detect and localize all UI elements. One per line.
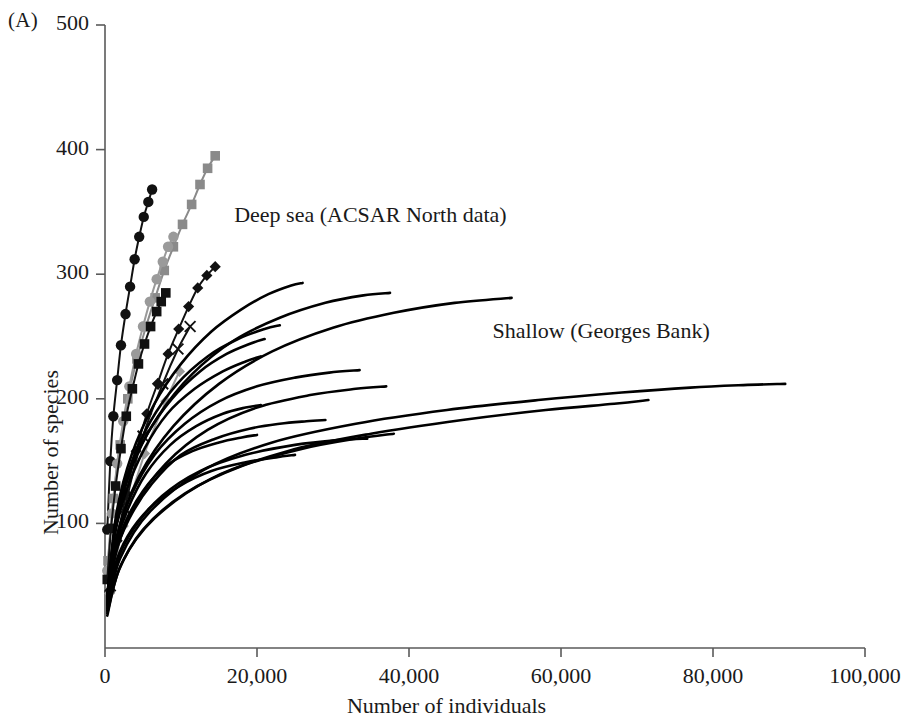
x-tick-label: 20,000 <box>192 663 322 689</box>
y-axis-title: Number of species <box>38 370 64 535</box>
curve-shallow-curve-7 <box>107 370 359 601</box>
curve-shallow-curve-14 <box>107 384 785 611</box>
curve-shallow-curve-9 <box>107 405 261 603</box>
curve-shallow-curve-2 <box>107 293 390 598</box>
x-tick-label: 40,000 <box>344 663 474 689</box>
curve-shallow-curve-1 <box>107 283 302 596</box>
x-tick-label: 0 <box>40 663 170 689</box>
x-axis-title: Number of individuals <box>0 693 893 719</box>
series-annotation: Shallow (Georges Bank) <box>493 318 710 344</box>
x-tick-label: 60,000 <box>496 663 626 689</box>
y-tick-label: 400 <box>19 135 89 161</box>
x-tick-label: 100,000 <box>800 663 905 689</box>
y-tick-label: 500 <box>19 10 89 36</box>
axes <box>96 25 865 657</box>
x-tick-label: 80,000 <box>648 663 778 689</box>
curve-shallow-curve-13 <box>107 455 295 611</box>
y-tick-label: 300 <box>19 259 89 285</box>
series-annotation: Deep sea (ACSAR North data) <box>234 202 507 228</box>
